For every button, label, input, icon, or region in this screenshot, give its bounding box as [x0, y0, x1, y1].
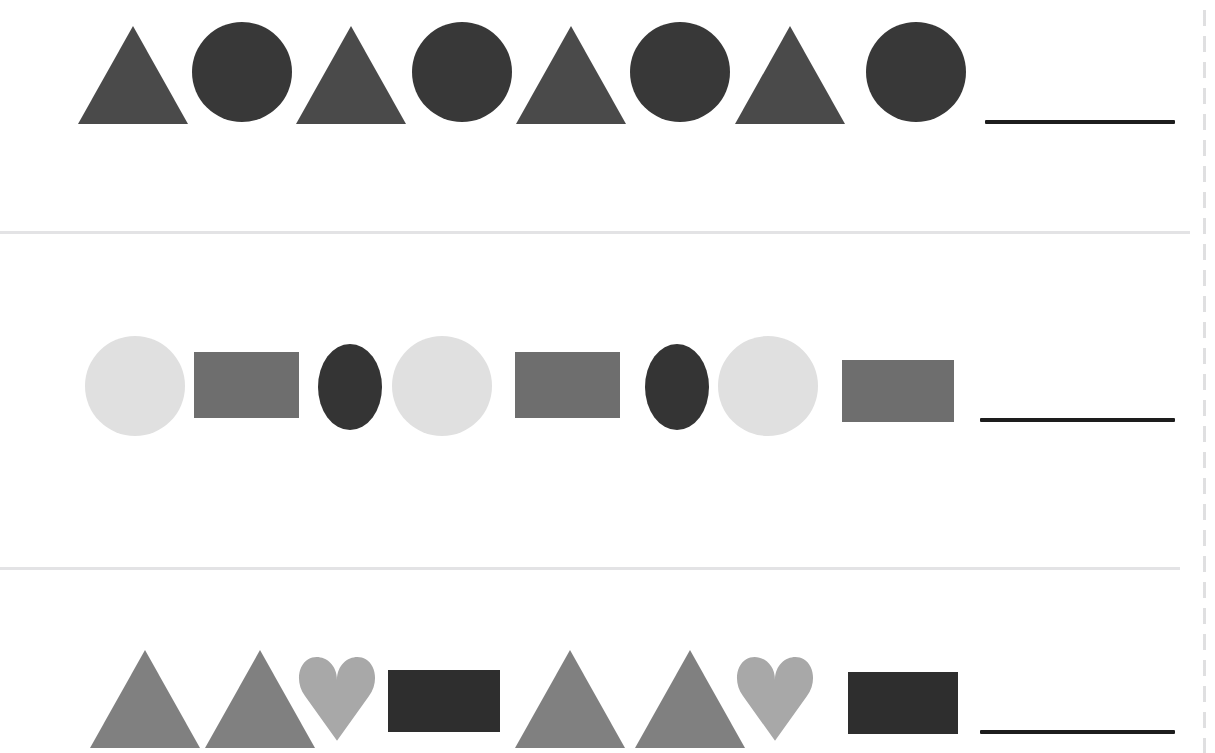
divider-2 — [0, 567, 1180, 570]
row-3-shape-6-triangle — [635, 650, 745, 748]
row-2-shape-7-circle — [718, 336, 818, 436]
right-edge-dashed-rule — [1203, 0, 1206, 753]
row-1-shape-4-circle — [412, 22, 512, 122]
row-3-shape-3-heart — [297, 650, 377, 742]
row-1-answer-blank[interactable] — [985, 120, 1175, 124]
row-3-shape-5-triangle — [515, 650, 625, 748]
row-1-shape-8-circle — [866, 22, 966, 122]
row-2-shape-2-rectangle — [194, 352, 299, 418]
row-1-shape-3-triangle — [296, 26, 406, 124]
row-2-shape-1-circle — [85, 336, 185, 436]
row-1-shape-1-triangle — [78, 26, 188, 124]
row-2-shape-5-rectangle — [515, 352, 620, 418]
heart-icon — [297, 650, 377, 742]
row-3-shape-4-rectangle — [388, 670, 500, 732]
row-2-answer-blank[interactable] — [980, 418, 1175, 422]
row-1-shape-6-circle — [630, 22, 730, 122]
row-2-shape-6-ellipse — [645, 344, 709, 430]
row-3-shape-1-triangle — [90, 650, 200, 748]
row-3-answer-blank[interactable] — [980, 730, 1175, 734]
divider-1 — [0, 231, 1190, 234]
row-2-shape-4-circle — [392, 336, 492, 436]
row-1-shape-2-circle — [192, 22, 292, 122]
worksheet-page — [0, 0, 1215, 753]
row-3-shape-8-rectangle — [848, 672, 958, 734]
row-3-shape-7-heart — [735, 650, 815, 742]
row-1-shape-7-triangle — [735, 26, 845, 124]
row-1-shape-5-triangle — [516, 26, 626, 124]
row-2-shape-3-ellipse — [318, 344, 382, 430]
row-2-shape-8-rectangle — [842, 360, 954, 422]
heart-icon — [735, 650, 815, 742]
